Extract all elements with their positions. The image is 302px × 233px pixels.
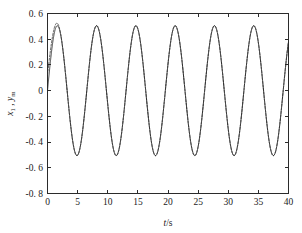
line-chart: 05101520253035400. 60. 40. 20-0. 2-0. 4-… xyxy=(0,0,302,233)
y-tick-label: -0. 8 xyxy=(26,189,44,199)
plot-frame xyxy=(48,14,289,194)
x-tick-label: 25 xyxy=(193,197,203,207)
y-tick-label: 0. 4 xyxy=(29,35,44,45)
x-tick-label: 15 xyxy=(133,197,143,207)
y-tick-label: 0. 2 xyxy=(29,60,44,70)
chart-figure: 05101520253035400. 60. 40. 20-0. 2-0. 4-… xyxy=(0,0,302,233)
y-tick-label: -0. 6 xyxy=(26,163,44,173)
y-tick-label: 0 xyxy=(38,86,43,96)
x-axis-title: t/s xyxy=(164,218,173,228)
x-tick-label: 0 xyxy=(45,197,50,207)
y-tick-label: 0. 6 xyxy=(29,9,44,19)
x-tick-label: 30 xyxy=(224,197,234,207)
x-tick-label: 35 xyxy=(254,197,264,207)
x-tick-label: 5 xyxy=(75,197,80,207)
y-tick-label: -0. 4 xyxy=(26,137,44,147)
series-group xyxy=(48,23,289,155)
series-x1-solid xyxy=(48,26,289,156)
x-tick-label: 10 xyxy=(103,197,113,207)
x-tick-label: 20 xyxy=(163,197,173,207)
series-ym-dashed xyxy=(48,23,289,155)
x-tick-label: 40 xyxy=(284,197,294,207)
y-tick-label: -0. 2 xyxy=(26,112,44,122)
y-axis-title: x1 , ym xyxy=(5,91,16,117)
